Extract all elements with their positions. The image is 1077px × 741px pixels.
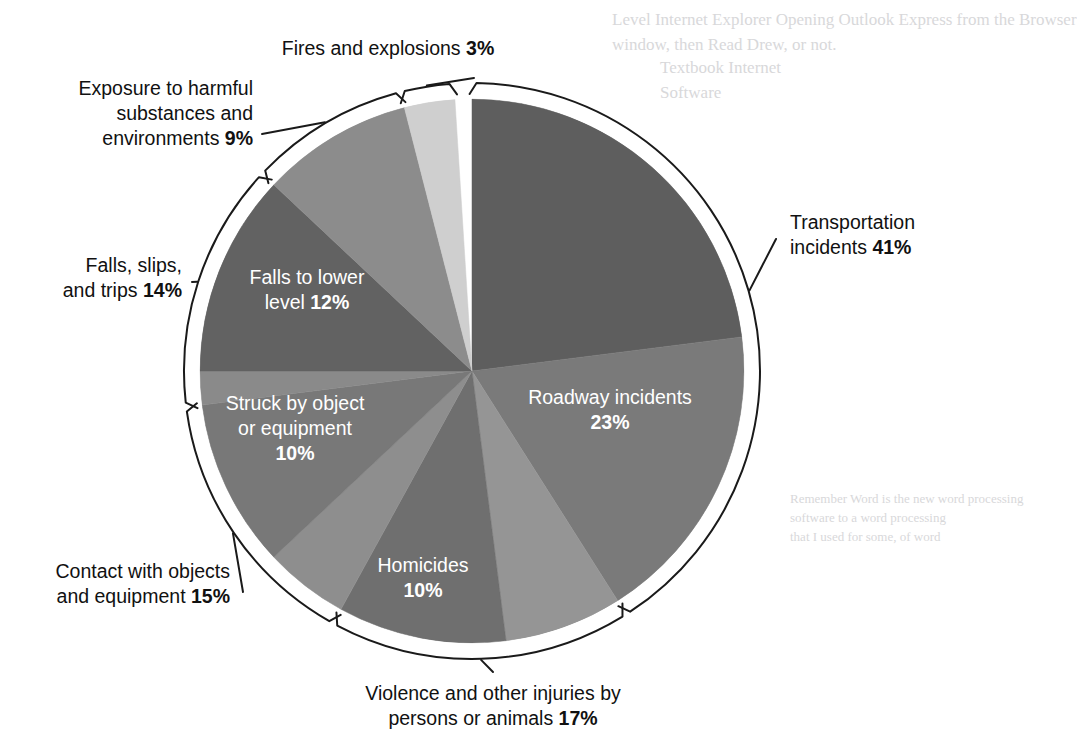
pie-slices-group [192, 91, 752, 651]
callout-label-fires-and-explosions: Fires and explosions 3% [282, 37, 494, 59]
